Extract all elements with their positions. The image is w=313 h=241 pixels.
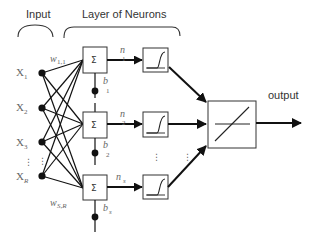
bias-node-2 [92, 150, 99, 157]
layer-header: Layer of Neurons [82, 8, 167, 20]
layer-brace [64, 27, 180, 38]
weight-label-last: w S,R [50, 197, 67, 210]
svg-text:X: X [16, 170, 24, 182]
input-header: Input [26, 8, 50, 20]
svg-text:3: 3 [24, 143, 28, 151]
neural-network-diagram: Input Layer of Neurons X 1 X 2 X 3 ⋮ X R… [0, 0, 313, 241]
input-label-x2: X 2 [16, 101, 28, 116]
input-label-x1: X 1 [16, 66, 28, 81]
svg-text:1: 1 [106, 87, 110, 95]
svg-text:w: w [50, 53, 57, 64]
svg-text:X: X [16, 66, 24, 78]
output-label: output [268, 89, 299, 101]
input-node-x1 [38, 69, 45, 76]
svg-text:w: w [50, 197, 57, 208]
svg-text:Σ: Σ [91, 183, 97, 193]
input-label-x3: X 3 [16, 136, 28, 151]
svg-text:b: b [103, 202, 108, 213]
bias-node-s [92, 214, 99, 221]
input-node-x3 [38, 138, 45, 145]
svg-text:n: n [120, 44, 125, 55]
neuron-1: Σ n 1 b 1 [83, 44, 168, 98]
svg-text:Σ: Σ [91, 120, 97, 130]
weight-label-first: w 1,1 [50, 53, 66, 66]
neuron-s: Σ n s b s [83, 171, 168, 232]
svg-text:2: 2 [24, 108, 28, 116]
svg-text:s: s [123, 177, 126, 185]
neuron-ellipsis: ⋮ [152, 152, 161, 162]
arrow-neuron1-output [169, 67, 206, 102]
svg-text:X: X [16, 101, 24, 113]
input-ellipsis-left: ⋮ [24, 157, 33, 167]
svg-text:X: X [16, 136, 24, 148]
svg-text:n: n [116, 171, 121, 182]
svg-text:b: b [103, 75, 108, 86]
input-ellipsis: ⋮ [38, 156, 47, 166]
input-label-xr: X R [16, 170, 29, 185]
svg-text:s: s [109, 208, 112, 216]
svg-text:n: n [120, 108, 125, 119]
svg-text:S,R: S,R [57, 202, 67, 210]
output-input-ellipsis: ⋮ [183, 152, 192, 162]
svg-text:2: 2 [122, 119, 126, 127]
svg-text:2: 2 [106, 151, 110, 159]
input-brace [18, 25, 53, 37]
svg-text:R: R [23, 177, 29, 185]
svg-text:Σ: Σ [91, 55, 97, 65]
weight-connections [42, 60, 83, 188]
svg-text:1,1: 1,1 [57, 58, 66, 66]
svg-text:1: 1 [24, 73, 28, 81]
svg-text:1: 1 [122, 55, 126, 63]
neuron-2: Σ n 2 b 2 ⋮ ⋮ [83, 103, 192, 165]
input-node-x2 [38, 104, 45, 111]
svg-text:b: b [103, 139, 108, 150]
bias-node-1 [92, 88, 99, 95]
input-node-xr [38, 172, 45, 179]
linear-transfer-icon [208, 101, 256, 148]
